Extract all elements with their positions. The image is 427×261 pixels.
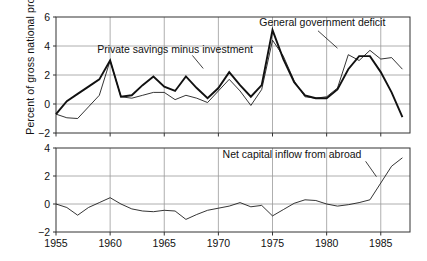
annotation-label: Net capital inflow from abroad <box>223 148 362 160</box>
annotation-leader <box>192 55 203 68</box>
y-tick-label: 0 <box>44 98 50 110</box>
x-tick-label: 1960 <box>98 237 122 249</box>
x-tick-label: 1980 <box>315 237 339 249</box>
annotation-label: Private savings minus investment <box>97 43 253 55</box>
chart-canvas: −20246Private savings minus investmentGe… <box>0 0 427 261</box>
x-tick-label: 1975 <box>261 237 285 249</box>
x-tick-label: 1985 <box>369 237 393 249</box>
chart-figure: Percent of gross national product −20246… <box>0 0 427 261</box>
y-tick-label: 2 <box>44 69 50 81</box>
y-tick-label: 0 <box>44 198 50 210</box>
panel-top: −20246Private savings minus investmentGe… <box>38 11 410 139</box>
x-tick-label: 1955 <box>44 237 68 249</box>
y-tick-label: 2 <box>44 170 50 182</box>
y-tick-label: 6 <box>44 11 50 23</box>
x-tick-label: 1970 <box>207 237 231 249</box>
panel-bottom: −20241955196019651970197519801985Net cap… <box>38 142 410 249</box>
y-tick-label: 4 <box>44 142 50 154</box>
series-line <box>56 158 402 220</box>
annotation-leader <box>318 31 337 48</box>
annotation-leader <box>366 161 377 176</box>
y-tick-label: 4 <box>44 40 50 52</box>
y-tick-label: −2 <box>38 226 50 238</box>
annotation-label: General government deficit <box>259 16 385 28</box>
x-tick-label: 1965 <box>153 237 177 249</box>
plot-frame <box>56 148 410 232</box>
y-tick-label: −2 <box>38 127 50 139</box>
